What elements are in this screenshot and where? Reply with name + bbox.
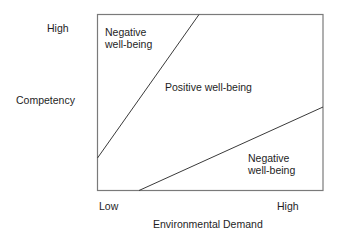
lower-boundary-line [139, 107, 323, 191]
region-positive-well-being: Positive well-being [165, 81, 252, 93]
diagram-canvas [0, 0, 338, 234]
x-axis-high-label: High [277, 200, 299, 212]
y-axis-high-label: High [47, 22, 69, 34]
x-axis-label: Environmental Demand [153, 218, 263, 230]
region-negative-well-being-upper: Negative well-being [105, 26, 152, 50]
y-axis-label: Competency [16, 94, 75, 106]
region-negative-well-being-lower: Negative well-being [248, 152, 295, 176]
x-axis-low-label: Low [99, 200, 118, 212]
